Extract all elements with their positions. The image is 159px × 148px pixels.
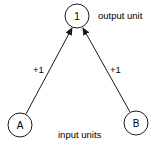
network-diagram: +1 +1 1 A B output unit input units bbox=[0, 0, 159, 148]
edge-weight-b: +1 bbox=[110, 64, 121, 75]
input-units-caption: input units bbox=[58, 129, 102, 140]
input-node-b: B bbox=[124, 111, 148, 135]
edge-weight-a: +1 bbox=[33, 64, 44, 75]
input-node-a-label: A bbox=[17, 120, 24, 131]
output-node-label: 1 bbox=[74, 11, 80, 22]
edge-b-to-output bbox=[83, 28, 130, 112]
output-unit-caption: output unit bbox=[98, 10, 143, 21]
output-node: 1 bbox=[65, 4, 89, 28]
input-node-b-label: B bbox=[133, 118, 140, 129]
input-node-a: A bbox=[8, 113, 32, 137]
